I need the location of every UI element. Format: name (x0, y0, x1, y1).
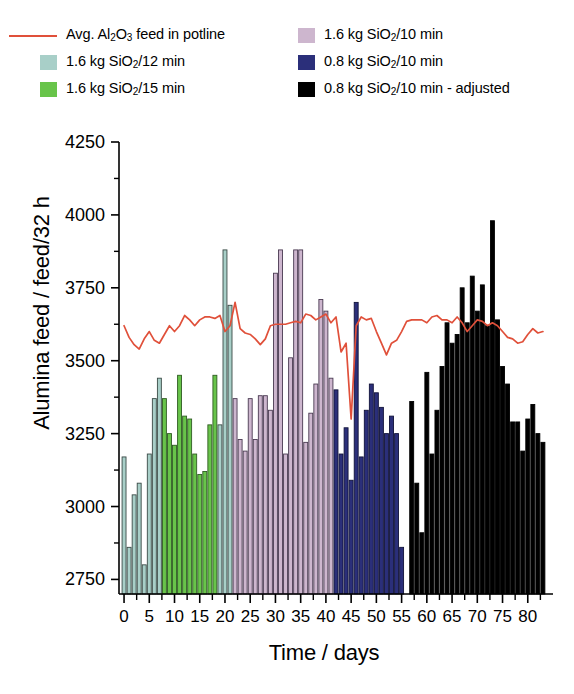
bar (223, 250, 227, 594)
y-tick-label: 4000 (45, 204, 105, 225)
bar (359, 457, 363, 594)
bar (258, 396, 262, 594)
bar (410, 402, 414, 594)
bar (379, 407, 383, 594)
bar (127, 547, 131, 594)
bar (465, 323, 469, 594)
chart-figure: Avg. Al2O3 feed in potline1.6 kg SiO2/12… (0, 0, 574, 694)
bar (536, 434, 540, 594)
bar (420, 533, 424, 594)
bar (344, 428, 348, 594)
bar (324, 311, 328, 594)
bar (496, 320, 500, 594)
bar (349, 480, 353, 594)
y-tick-label: 2750 (45, 569, 105, 590)
bar (132, 495, 136, 594)
y-tick-label: 3750 (45, 277, 105, 298)
bar (137, 483, 141, 594)
bar (485, 326, 489, 594)
bar (415, 483, 419, 594)
bar (385, 434, 389, 594)
bar (294, 250, 298, 594)
bar (263, 396, 267, 594)
bar (506, 384, 510, 594)
bar (430, 454, 434, 594)
bar (501, 367, 505, 594)
bar (122, 457, 126, 594)
bar (475, 311, 479, 594)
bar (526, 419, 530, 594)
bar (248, 399, 252, 594)
bar (440, 367, 444, 594)
bar (314, 384, 318, 594)
bar-series-4 (410, 221, 545, 594)
bar (152, 399, 156, 594)
bar (243, 451, 247, 594)
bar (193, 454, 197, 594)
bar (339, 454, 343, 594)
bar (198, 474, 202, 594)
bar (435, 410, 439, 594)
bar (238, 439, 242, 594)
bar (334, 390, 338, 594)
bar (480, 285, 484, 594)
bar (490, 221, 494, 594)
bar (142, 565, 146, 594)
bar (304, 442, 308, 594)
bar (168, 434, 172, 594)
y-tick-label: 3000 (45, 496, 105, 517)
bar (531, 404, 535, 594)
bar (329, 378, 333, 594)
bar (284, 454, 288, 594)
bar (511, 422, 515, 594)
x-tick-label: 80 (513, 607, 543, 627)
bar (309, 413, 313, 594)
y-tick-label: 4250 (45, 132, 105, 153)
bar (450, 343, 454, 594)
bar (364, 410, 368, 594)
bar (147, 454, 151, 594)
bar (425, 372, 429, 594)
bar (279, 250, 283, 594)
bar-series-2 (233, 250, 333, 594)
bar (541, 442, 545, 594)
bar (157, 378, 161, 594)
bar (178, 375, 182, 594)
bar (188, 419, 192, 594)
bar (400, 547, 404, 594)
bar (233, 399, 237, 594)
bar (460, 288, 464, 594)
bar (208, 425, 212, 594)
bar (289, 358, 293, 594)
bar (395, 434, 399, 594)
bar (319, 299, 323, 594)
bar (455, 334, 459, 594)
bar (273, 273, 277, 594)
bar (213, 375, 217, 594)
y-tick-label: 3500 (45, 350, 105, 371)
bar (268, 410, 272, 594)
bar (521, 451, 525, 594)
bar (218, 425, 222, 594)
bar (173, 445, 177, 594)
y-tick-label: 3250 (45, 423, 105, 444)
bar-series-1 (162, 375, 216, 594)
bar (253, 439, 257, 594)
bar (228, 305, 232, 594)
bar (445, 323, 449, 594)
bar (183, 416, 187, 594)
bar (374, 393, 378, 594)
bar (369, 384, 373, 594)
bar (203, 472, 207, 594)
bar (390, 416, 394, 594)
bar (516, 422, 520, 594)
bar (162, 399, 166, 594)
bar (299, 250, 303, 594)
